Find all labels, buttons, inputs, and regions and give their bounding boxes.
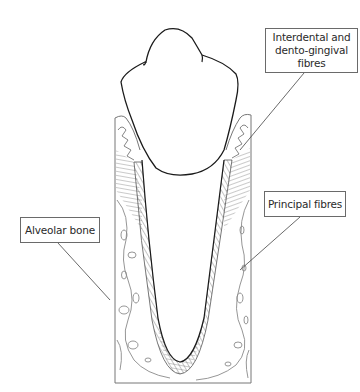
label-line: Alveolar bone [25,224,95,237]
leader-interdental [240,73,304,150]
label-alveolar-bone: Alveolar bone [20,217,100,243]
label-principal-fibres: Principal fibres [264,191,346,217]
leader-alveolar [58,243,110,300]
leader-principal [240,217,300,270]
label-line: Interdental and [273,31,351,44]
label-line: Principal fibres [268,198,342,211]
label-line: fibres [273,57,351,70]
label-line: dento-gingival [273,44,351,57]
label-interdental-dento-gingival-fibres: Interdental and dento-gingival fibres [265,28,358,73]
tooth-crown [121,29,238,176]
